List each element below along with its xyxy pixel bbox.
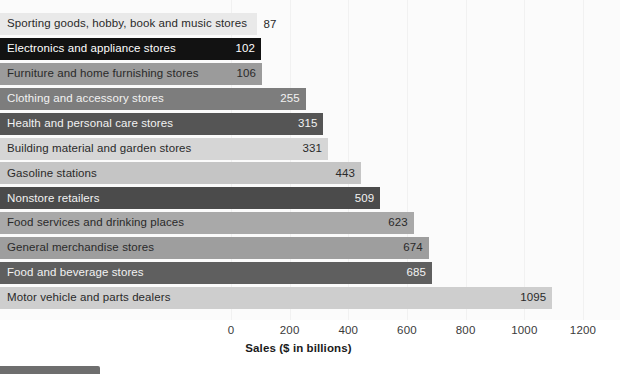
bar[interactable]: Sporting goods, hobby, book and music st… — [0, 13, 257, 35]
bar[interactable]: Health and personal care stores315 — [0, 113, 323, 135]
bar[interactable]: General merchandise stores674 — [0, 237, 429, 259]
bar[interactable]: Food and beverage stores685 — [0, 262, 432, 284]
bar-value-label: 87 — [264, 13, 277, 35]
bar-value-label: 443 — [335, 168, 355, 180]
x-axis-title: Sales ($ in billions) — [245, 342, 351, 354]
x-tick-label: 200 — [280, 324, 300, 336]
x-tick-label: 400 — [338, 324, 358, 336]
bar-row[interactable]: Health and personal care stores315 — [0, 113, 620, 135]
x-tick-label: 600 — [397, 324, 417, 336]
bar-row[interactable]: Sporting goods, hobby, book and music st… — [0, 13, 620, 35]
bar-category-label: Food and beverage stores — [7, 267, 144, 279]
bar-value-label: 102 — [235, 43, 255, 55]
bar-category-label: Food services and drinking places — [7, 217, 184, 229]
bar-category-label: Building material and garden stores — [7, 143, 191, 155]
bar-series: Sporting goods, hobby, book and music st… — [0, 0, 620, 320]
bar-category-label: Gasoline stations — [7, 168, 97, 180]
bar[interactable]: Building material and garden stores331 — [0, 138, 328, 160]
bottom-left-tab[interactable] — [0, 366, 100, 374]
x-tick-label: 800 — [456, 324, 476, 336]
x-tick-label: 1000 — [511, 324, 537, 336]
bar-value-label: 685 — [406, 267, 426, 279]
bar-category-label: Motor vehicle and parts dealers — [7, 292, 171, 304]
bar-row[interactable]: Furniture and home furnishing stores106 — [0, 63, 620, 85]
bar[interactable]: Nonstore retailers509 — [0, 187, 380, 209]
bar-category-label: Electronics and appliance stores — [7, 43, 176, 55]
bar-category-label: Clothing and accessory stores — [7, 93, 164, 105]
bar-value-label: 1095 — [520, 292, 546, 304]
bar-row[interactable]: Food and beverage stores685 — [0, 262, 620, 284]
bar-value-label: 674 — [403, 242, 423, 254]
bar-row[interactable]: Clothing and accessory stores255 — [0, 88, 620, 110]
x-tick-label: 0 — [228, 324, 235, 336]
bar-row[interactable]: Motor vehicle and parts dealers1095 — [0, 287, 620, 309]
bar-row[interactable]: Building material and garden stores331 — [0, 138, 620, 160]
bar-category-label: Sporting goods, hobby, book and music st… — [7, 18, 247, 30]
bar-category-label: General merchandise stores — [7, 242, 154, 254]
bar[interactable]: Motor vehicle and parts dealers1095 — [0, 287, 552, 309]
bar-value-label: 509 — [355, 193, 375, 205]
bar-row[interactable]: Food services and drinking places623 — [0, 212, 620, 234]
bar-category-label: Furniture and home furnishing stores — [7, 68, 199, 80]
bar[interactable]: Food services and drinking places623 — [0, 212, 414, 234]
bar-row[interactable]: Gasoline stations443 — [0, 162, 620, 184]
bar[interactable]: Furniture and home furnishing stores106 — [0, 63, 262, 85]
bar-row[interactable]: Electronics and appliance stores102 — [0, 38, 620, 60]
bar[interactable]: Clothing and accessory stores255 — [0, 88, 306, 110]
bar-value-label: 255 — [280, 93, 300, 105]
bar-row[interactable]: Nonstore retailers509 — [0, 187, 620, 209]
bar-category-label: Nonstore retailers — [7, 193, 100, 205]
bar-value-label: 623 — [388, 217, 408, 229]
bar-value-label: 331 — [303, 143, 323, 155]
bar-row[interactable]: General merchandise stores674 — [0, 237, 620, 259]
bar[interactable]: Gasoline stations443 — [0, 162, 361, 184]
bar-category-label: Health and personal care stores — [7, 118, 173, 130]
plot-area: Sporting goods, hobby, book and music st… — [0, 0, 620, 320]
bar-value-label: 315 — [298, 118, 318, 130]
bar[interactable]: Electronics and appliance stores102 — [0, 38, 261, 60]
x-tick-label: 1200 — [570, 324, 596, 336]
chart-screenshot: Sporting goods, hobby, book and music st… — [0, 0, 620, 374]
bar-value-label: 106 — [237, 68, 257, 80]
